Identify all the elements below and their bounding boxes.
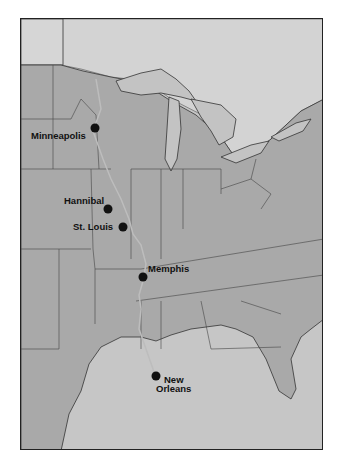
map-frame: Minneapolis Hannibal St. Louis Memphis N… [20,18,323,450]
city-dot-new-orleans [152,372,161,381]
inset-box [21,19,63,65]
city-dot-minneapolis [91,124,100,133]
city-dot-st-louis [119,223,128,232]
city-label-minneapolis: Minneapolis [31,131,86,141]
city-label-hannibal: Hannibal [64,196,104,206]
city-label-new-orleans-line2: Orleans [156,384,191,394]
city-label-st-louis: St. Louis [73,222,113,232]
city-dot-hannibal [104,205,113,214]
city-label-memphis: Memphis [148,264,189,274]
city-dot-memphis [139,273,148,282]
